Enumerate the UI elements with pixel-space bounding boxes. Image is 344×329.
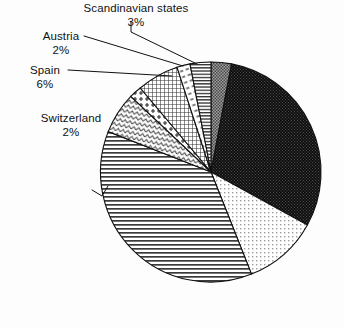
pie-label-switzerland: Switzerland 2% <box>28 112 114 139</box>
pie-chart-figure: Scandinavian states 3% Austria 2% Spain … <box>0 0 344 329</box>
pie-label-spain: Spain 6% <box>10 64 80 91</box>
leader-line-austria <box>84 36 183 66</box>
leader-line-spain <box>68 70 172 76</box>
pie-label-scandinavian: Scandinavian states 3% <box>72 2 200 29</box>
pie-label-austria-name: Austria <box>43 30 80 42</box>
pie-label-austria: Austria 2% <box>26 30 96 57</box>
pie-label-scandinavian-pct: 3% <box>72 16 200 30</box>
pie-label-switzerland-name: Switzerland <box>41 112 102 124</box>
pie-label-austria-pct: 2% <box>26 44 96 58</box>
pie-label-spain-pct: 6% <box>10 78 80 92</box>
pie-label-switzerland-pct: 2% <box>28 126 114 140</box>
pie-label-scandinavian-name: Scandinavian states <box>84 2 189 14</box>
pie-slices <box>101 62 322 282</box>
pie-label-spain-name: Spain <box>30 64 60 76</box>
